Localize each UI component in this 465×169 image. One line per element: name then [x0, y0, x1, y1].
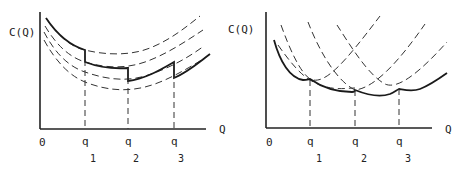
left-tick-q1: q	[82, 135, 89, 148]
right-tick-q1-sub: 1	[316, 153, 322, 164]
left-tick-q1-sub: 1	[90, 153, 96, 164]
right-tick-q3: q	[396, 135, 403, 148]
right-tick-q1: q	[307, 135, 314, 148]
left-tick-q3-sub: 3	[178, 153, 184, 164]
right-dashed-curve-b	[308, 22, 425, 90]
left-tick-q2-sub: 2	[133, 153, 139, 164]
left-dashed-curve-1	[46, 16, 200, 54]
right-tick-q2-sub: 2	[361, 153, 367, 164]
right-origin-label: 0	[266, 136, 273, 149]
right-y-axis-label: C(Q)	[228, 23, 255, 36]
right-x-axis-label: Q	[445, 123, 452, 136]
left-panel: C(Q) Q 0 q 1 q 2 q 3	[9, 12, 226, 164]
left-tick-q2: q	[125, 135, 132, 148]
right-panel: C(Q) Q 0 q 1 q 2 q 3	[228, 12, 452, 164]
right-dashed-curve-c	[337, 25, 447, 85]
right-tick-q3-sub: 3	[405, 153, 411, 164]
left-dashed-curve-2	[45, 26, 203, 67]
cost-curves-figure: C(Q) Q 0 q 1 q 2 q 3 C(Q) Q 0 q 1 q 2 q …	[0, 0, 465, 169]
right-dashed-curve-a	[281, 16, 380, 80]
left-y-axis-label: C(Q)	[9, 26, 36, 39]
left-x-axis-label: Q	[219, 123, 226, 136]
left-dashed-curve-4	[44, 40, 205, 90]
left-tick-q3: q	[171, 135, 178, 148]
right-tick-q2: q	[352, 135, 359, 148]
left-origin-label: 0	[39, 136, 46, 149]
